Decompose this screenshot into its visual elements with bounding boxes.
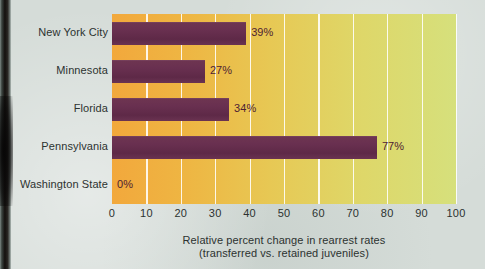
- category-label: Washington State: [0, 178, 108, 190]
- category-label: Pennsylvania: [0, 140, 108, 152]
- x-tick-label: 60: [312, 207, 325, 219]
- x-axis-caption-line-1: Relative percent change in rearrest rate…: [183, 234, 386, 246]
- bar: [112, 98, 229, 121]
- category-label: Minnesota: [0, 64, 108, 76]
- plot-area: 39%27%34%77%0%: [112, 14, 456, 204]
- x-axis-caption: Relative percent change in rearrest rate…: [112, 234, 456, 260]
- x-tick-label: 70: [346, 207, 359, 219]
- bar: [112, 22, 246, 45]
- category-label: Florida: [0, 102, 108, 114]
- x-tick-label: 80: [381, 207, 394, 219]
- bar-value-label: 27%: [210, 64, 232, 76]
- category-label: New York City: [0, 26, 108, 38]
- bar-value-label: 0%: [117, 178, 133, 190]
- bar-value-label: 34%: [234, 102, 256, 114]
- x-tick-label: 20: [174, 207, 187, 219]
- x-tick-label: 100: [447, 207, 466, 219]
- x-tick-label: 90: [415, 207, 428, 219]
- chart-page: New York CityMinnesotaFloridaPennsylvani…: [0, 0, 485, 269]
- bar-series: 39%27%34%77%0%: [112, 14, 456, 204]
- x-tick-label: 50: [278, 207, 291, 219]
- bar: [112, 136, 377, 159]
- x-tick-label: 30: [209, 207, 222, 219]
- x-tick-label: 10: [140, 207, 153, 219]
- bar: [112, 60, 205, 83]
- gridline: [456, 14, 457, 204]
- x-tick-label: 40: [243, 207, 256, 219]
- x-axis-caption-line-2: (transferred vs. retained juveniles): [112, 247, 456, 260]
- x-tick-label: 0: [109, 207, 115, 219]
- category-axis-labels: New York CityMinnesotaFloridaPennsylvani…: [0, 14, 108, 204]
- bar-value-label: 39%: [251, 26, 273, 38]
- bar-value-label: 77%: [382, 140, 404, 152]
- x-axis-tick-labels: 0102030405060708090100: [112, 207, 456, 223]
